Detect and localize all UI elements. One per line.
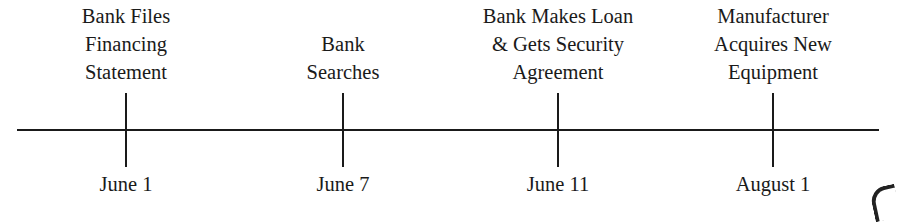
- event-label-3: Bank Makes Loan & Gets Security Agreemen…: [448, 2, 668, 86]
- date-label-4: August 1: [693, 170, 853, 198]
- timeline-tick-1: [125, 93, 127, 167]
- timeline-tick-3: [557, 93, 559, 167]
- event-label-line: & Gets Security: [448, 30, 668, 58]
- date-label-1: June 1: [46, 170, 206, 198]
- timeline-tick-4: [772, 93, 774, 167]
- event-label-4: Manufacturer Acquires New Equipment: [663, 2, 883, 86]
- event-label-line: Financing: [16, 30, 236, 58]
- event-label-line: Bank Makes Loan: [448, 2, 668, 30]
- event-label-line: Statement: [16, 58, 236, 86]
- cropped-glyph-fragment: [869, 184, 900, 223]
- event-label-line: Searches: [233, 58, 453, 86]
- timeline-tick-2: [342, 93, 344, 167]
- date-label-2: June 7: [263, 170, 423, 198]
- event-label-line: Manufacturer: [663, 2, 883, 30]
- event-label-line: Bank Files: [16, 2, 236, 30]
- timeline-axis: [17, 129, 879, 131]
- event-label-line: Acquires New: [663, 30, 883, 58]
- event-label-line: Agreement: [448, 58, 668, 86]
- event-label-1: Bank Files Financing Statement: [16, 2, 236, 86]
- event-label-line: Equipment: [663, 58, 883, 86]
- event-label-2: Bank Searches: [233, 30, 453, 86]
- date-label-3: June 11: [478, 170, 638, 198]
- event-label-line: Bank: [233, 30, 453, 58]
